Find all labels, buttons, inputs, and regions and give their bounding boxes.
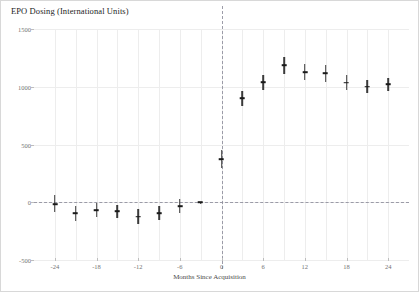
y-axis-tick-mark: [31, 87, 34, 88]
data-point-marker: [157, 212, 162, 214]
y-axis-tick-label: 0: [1, 199, 31, 206]
x-axis-tick-label: -6: [177, 263, 182, 270]
data-point-marker: [240, 98, 245, 100]
data-point-marker: [177, 205, 182, 207]
data-point-marker: [261, 81, 266, 83]
data-point-error-bar: [96, 203, 98, 217]
x-axis-tick-mark: [55, 258, 56, 261]
x-axis-tick-label: 0: [220, 263, 223, 270]
event-reference-line-vertical: [222, 6, 223, 269]
y-axis-tick-mark: [31, 145, 34, 146]
data-point-error-bar: [325, 65, 327, 81]
data-point-error-bar: [387, 78, 389, 92]
y-axis-tick-label: 1000: [1, 83, 31, 90]
data-point-error-bar: [200, 202, 202, 204]
y-axis-tick-mark: [31, 29, 34, 30]
data-point-error-bar: [158, 206, 160, 220]
x-axis-tick-label: -24: [50, 263, 59, 270]
data-point-marker: [365, 86, 370, 88]
data-point-marker: [219, 158, 224, 160]
data-point-marker: [323, 73, 328, 75]
x-axis-tick-mark: [305, 258, 306, 261]
data-point-marker: [302, 71, 307, 73]
chart-title: EPO Dosing (International Units): [11, 6, 129, 16]
x-axis-tick-mark: [97, 258, 98, 261]
data-point-error-bar: [117, 205, 119, 219]
data-point-marker: [136, 216, 141, 218]
data-point-marker: [386, 84, 391, 86]
x-axis-tick-label: 24: [385, 263, 392, 270]
x-axis-tick-label: -18: [92, 263, 101, 270]
y-axis-tick-mark: [31, 202, 34, 203]
data-point-error-bar: [304, 64, 306, 80]
data-point-error-bar: [54, 195, 56, 212]
y-axis-tick-label: -500: [1, 257, 31, 264]
x-axis-tick-mark: [263, 258, 264, 261]
data-point-marker: [94, 209, 99, 211]
data-point-error-bar: [221, 150, 223, 167]
data-point-marker: [52, 204, 57, 206]
data-point-error-bar: [75, 206, 77, 221]
data-point-error-bar: [346, 75, 348, 89]
x-axis-tick-label: 18: [343, 263, 350, 270]
y-axis-tick-mark: [31, 260, 34, 261]
chart-figure: EPO Dosing (International Units) Months …: [0, 0, 419, 292]
y-axis-tick-label: 500: [1, 141, 31, 148]
plot-area: [34, 29, 409, 260]
data-point-marker: [198, 202, 203, 204]
x-axis-tick-mark: [138, 258, 139, 261]
x-axis-tick-mark: [180, 258, 181, 261]
data-point-marker: [344, 82, 349, 84]
x-axis-tick-mark: [222, 258, 223, 261]
x-axis-tick-mark: [347, 258, 348, 261]
data-point-error-bar: [283, 57, 285, 74]
data-point-marker: [73, 212, 78, 214]
data-point-error-bar: [137, 209, 139, 224]
y-axis-tick-label: 1500: [1, 26, 31, 33]
x-axis-title: Months Since Acquisition: [1, 273, 418, 281]
data-point-error-bar: [242, 91, 244, 106]
x-axis-tick-label: 12: [302, 263, 309, 270]
x-axis-tick-label: 6: [262, 263, 265, 270]
data-point-marker: [282, 65, 287, 67]
data-point-error-bar: [262, 75, 264, 90]
x-axis-tick-label: -12: [134, 263, 143, 270]
data-point-error-bar: [367, 80, 369, 93]
data-point-marker: [115, 211, 120, 213]
data-point-error-bar: [179, 199, 181, 213]
x-axis-tick-mark: [388, 258, 389, 261]
